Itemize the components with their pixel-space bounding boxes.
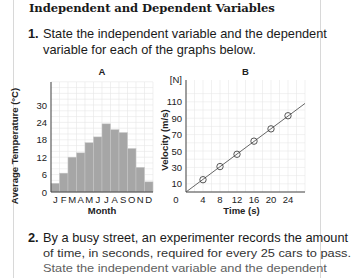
chart-b-xtick-label: 20 — [266, 194, 277, 205]
chart-a-bar — [102, 124, 111, 192]
chart-b-ytick-label: 50 — [171, 146, 182, 157]
chart-b-xtick-label: 16 — [249, 194, 260, 205]
chart-b-ytick-label: 30 — [171, 162, 182, 173]
chart-a-xtick-label: O — [128, 194, 135, 205]
chart-a-ytick-label: 24 — [36, 117, 47, 128]
chart-a-ytick-label: 18 — [36, 134, 47, 145]
question-number: 2. — [28, 230, 39, 246]
chart-a-xtick-label: F — [61, 194, 67, 205]
chart-a-title: A — [99, 66, 106, 77]
chart-a-xtick-label: M — [68, 194, 76, 205]
chart-b-xtick-label: 12 — [232, 194, 243, 205]
chart-a-ytick-label: 30 — [36, 100, 47, 111]
chart-b-ytick-label: 70 — [171, 129, 182, 140]
chart-a-ylabel: Average Temperature (°C) — [9, 88, 20, 204]
chart-b-xtick-label: 4 — [200, 194, 205, 205]
chart-a-bar — [77, 153, 86, 192]
question-text: By a busy street, an experimenter record… — [43, 230, 351, 278]
chart-a-bar — [111, 130, 120, 192]
chart-a-xtick-label: J — [95, 194, 100, 205]
chart-b-xtick-label: 8 — [217, 194, 222, 205]
chart-b-xtick-label: 24 — [283, 194, 294, 205]
chart-b-ytick-label: 10 — [171, 178, 182, 189]
chart-b-title: B — [242, 66, 249, 77]
chart-a-bar — [85, 143, 94, 192]
chart-a-bar — [68, 157, 77, 192]
chart-a-xtick-label: J — [53, 194, 58, 205]
chart-a-xtick-label: D — [145, 194, 152, 205]
chart-a-ytick-label: 12 — [36, 152, 47, 163]
chart-a-ytick-label: 6 — [42, 169, 47, 180]
chart-a-xtick-label: A — [112, 194, 119, 205]
chart-a-bar — [51, 183, 60, 192]
chart-a-bar — [60, 173, 69, 192]
chart-b-xlabel: Time (s) — [223, 205, 259, 216]
chart-a-xtick-label: S — [120, 194, 126, 205]
chart-b-ytick-label: 110 — [167, 96, 182, 107]
chart-a-bar — [145, 182, 154, 192]
question-line: By a busy street, an experimenter record… — [43, 230, 351, 246]
chart-a-bar — [136, 167, 145, 192]
chart-a-ytick-label: 0 — [42, 187, 47, 198]
chart-a-xtick-label: J — [104, 194, 109, 205]
chart-a-xtick-label: M — [85, 194, 93, 205]
chart-b-ytick-label: 90 — [171, 113, 182, 124]
chart-a-bar — [94, 137, 103, 192]
chart-b-unit-label: [N] — [170, 74, 182, 85]
chart-a-xtick-label: N — [137, 194, 144, 205]
chart-a-xtick-label: A — [78, 194, 85, 205]
chart-b-xtick-label: 0 — [173, 194, 178, 205]
question-line: of time, in seconds, required for every … — [43, 246, 351, 260]
chart-b-ylabel: Velocity (m/s) — [159, 109, 170, 170]
chart-a-bar — [119, 133, 128, 192]
question-line: State the independent variable and the d… — [43, 262, 351, 276]
chart-a-xlabel: Month — [88, 205, 117, 216]
chart-a-bar — [128, 149, 137, 193]
